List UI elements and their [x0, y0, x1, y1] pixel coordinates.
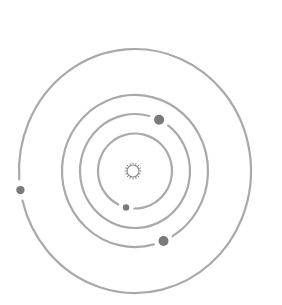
planet-1 [123, 204, 129, 210]
sun-icon [125, 163, 142, 180]
sun-ray [125, 168, 127, 169]
sun-ray [130, 177, 131, 179]
sun-ray [139, 174, 141, 175]
sun-ray [136, 177, 137, 179]
sun-ray [130, 163, 131, 165]
sun-ray [138, 165, 139, 166]
solar-system-diagram [0, 0, 282, 305]
planet-2 [154, 115, 164, 125]
planet-4 [16, 186, 24, 194]
sun-ray [127, 176, 128, 177]
sun-ray [136, 163, 137, 165]
sun-ray [139, 168, 141, 169]
diagram-canvas [0, 0, 282, 305]
sun-body [127, 165, 139, 177]
planet-3 [159, 236, 169, 246]
sun-ray [138, 176, 139, 177]
sun-ray [125, 174, 127, 175]
sun-ray [127, 165, 128, 166]
